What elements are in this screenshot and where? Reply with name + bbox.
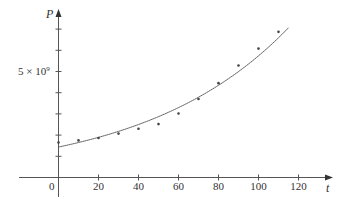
y-axis-label: P (46, 8, 53, 20)
data-point (177, 112, 180, 115)
data-point (137, 127, 140, 130)
data-point (57, 141, 60, 144)
data-point (277, 31, 280, 34)
data-point (217, 82, 220, 85)
x-axis-arrow-icon (325, 175, 333, 181)
data-point (97, 137, 100, 140)
axes (19, 14, 328, 197)
y-marker-exponent: 9 (46, 65, 50, 73)
data-points (57, 31, 280, 144)
x-axis-label: t (326, 182, 329, 194)
chart-canvas (0, 0, 350, 200)
y-axis-arrow-icon (56, 9, 62, 17)
data-point (117, 132, 120, 135)
data-point (157, 123, 160, 126)
x-tick-label: 60 (173, 181, 184, 192)
y-marker-label: 5 × 109 (18, 66, 50, 77)
x-tick-label: 20 (93, 181, 104, 192)
x-tick-label: 40 (133, 181, 144, 192)
y-marker-base: 5 × 10 (18, 65, 46, 77)
origin-label: 0 (49, 181, 55, 192)
data-point (237, 64, 240, 67)
model-curve (59, 28, 289, 147)
x-tick-label: 100 (250, 181, 267, 192)
x-tick-label: 120 (290, 181, 307, 192)
data-point (257, 47, 260, 50)
x-tick-label: 80 (213, 181, 224, 192)
data-point (77, 139, 80, 142)
data-point (197, 98, 200, 101)
